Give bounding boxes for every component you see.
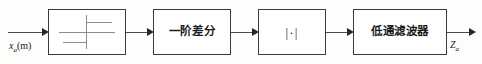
block-filterbank[interactable]: [48, 9, 126, 55]
block-difference-label: 一阶差分: [169, 26, 215, 38]
input-signal-label: xa(m): [9, 41, 31, 54]
filter-response-midline-icon: [59, 32, 115, 33]
block-lowpass-filter-label: 低通滤波器: [371, 26, 429, 38]
input-connector-line: [8, 32, 46, 33]
block-lowpass-filter[interactable]: 低通滤波器: [353, 9, 447, 55]
output-signal-label: Za: [450, 40, 459, 53]
filter-response-symbol-icon: [59, 15, 115, 49]
output-arrowhead-icon: [469, 28, 476, 36]
input-signal-argument: (m): [17, 40, 31, 51]
block-absolute[interactable]: |·|: [258, 9, 326, 55]
filter-response-upper-segment-icon: [87, 22, 112, 23]
filter-response-lower-segment-icon: [63, 42, 87, 43]
block-difference[interactable]: 一阶差分: [153, 9, 231, 55]
output-signal-subscript: a: [456, 45, 460, 53]
block-absolute-label: |·|: [285, 26, 298, 39]
block-diagram-canvas: xa(m) 一阶差分 |·| 低通滤波器 Za: [0, 0, 482, 64]
